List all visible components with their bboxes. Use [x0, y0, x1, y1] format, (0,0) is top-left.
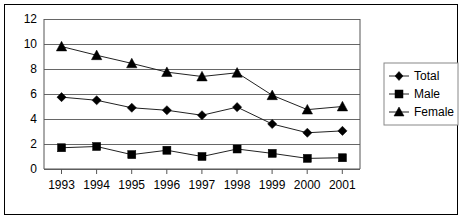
square-icon [395, 90, 403, 98]
data-point-male-1997 [198, 153, 206, 161]
legend-label-male: Male [414, 87, 440, 101]
data-point-male-1996 [163, 146, 171, 154]
data-point-total-1996 [162, 106, 171, 115]
data-point-total-1994 [92, 96, 101, 105]
x-tick-label: 1997 [189, 178, 216, 192]
x-axis-labels: 1993 1994 1995 1996 1997 1998 1999 2000 … [48, 178, 356, 192]
data-point-total-1995 [127, 103, 136, 112]
data-point-total-1998 [233, 103, 242, 112]
data-point-total-2001 [338, 126, 347, 135]
y-tick-label: 0 [30, 162, 37, 176]
data-point-male-1998 [233, 145, 241, 153]
x-tick-label: 1993 [48, 178, 75, 192]
y-tick-label: 12 [24, 12, 38, 26]
legend-label-female: Female [414, 105, 454, 119]
x-tick-label: 1998 [224, 178, 251, 192]
x-tick-label: 2000 [294, 178, 321, 192]
data-point-total-1999 [268, 119, 277, 128]
data-point-male-2001 [338, 154, 346, 162]
chart-screenshot: 12 10 8 6 4 2 0 1993 1994 1995 1996 1997… [0, 0, 463, 220]
data-point-total-2000 [303, 128, 312, 137]
series-male [58, 143, 347, 163]
series-female [56, 41, 347, 114]
y-tick-label: 8 [30, 62, 37, 76]
data-point-female-1994 [91, 50, 101, 60]
x-tick-label: 2001 [329, 178, 356, 192]
series-total [57, 93, 347, 138]
data-point-male-1994 [93, 143, 101, 151]
data-point-male-2000 [303, 154, 311, 162]
data-point-male-1995 [128, 151, 136, 159]
data-point-female-2001 [337, 101, 347, 111]
y-tick-label: 6 [30, 87, 37, 101]
y-tick-label: 10 [24, 37, 38, 51]
x-axis-ticks [62, 169, 343, 174]
data-point-total-1997 [197, 111, 206, 120]
x-tick-label: 1996 [153, 178, 180, 192]
y-axis-labels: 12 10 8 6 4 2 0 [24, 12, 38, 176]
x-tick-label: 1994 [83, 178, 110, 192]
x-tick-label: 1995 [118, 178, 145, 192]
data-point-female-1999 [267, 90, 277, 100]
legend: Total Male Female [384, 63, 458, 125]
data-point-male-1993 [58, 144, 66, 152]
y-tick-label: 4 [30, 112, 37, 126]
data-point-female-1993 [56, 41, 66, 51]
line-chart: 12 10 8 6 4 2 0 1993 1994 1995 1996 1997… [0, 0, 463, 220]
data-point-male-1999 [268, 149, 276, 157]
y-tick-label: 2 [30, 137, 37, 151]
x-tick-label: 1999 [259, 178, 286, 192]
legend-label-total: Total [414, 69, 439, 83]
